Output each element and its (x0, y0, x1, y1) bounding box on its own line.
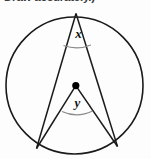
chord-apex-to-left (37, 14, 77, 149)
radius-center-to-right (76, 86, 118, 147)
figure-screenshot: Draw accurately.) x y (0, 0, 151, 159)
angle-arc-y (62, 111, 93, 115)
radius-center-to-left (37, 86, 76, 149)
chord-apex-to-right (76, 14, 118, 147)
angle-label-x: x (74, 26, 82, 41)
geometry-figure: x y (0, 0, 151, 159)
angle-label-y: y (73, 95, 81, 110)
center-point-dot (72, 82, 79, 89)
